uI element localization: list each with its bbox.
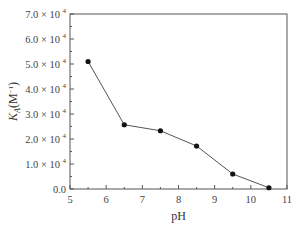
y-tick-label: 4.0 × 10 xyxy=(25,84,60,95)
x-tick-label: 10 xyxy=(246,194,257,205)
y-axis-label: KA(M−1) xyxy=(6,82,22,122)
data-point xyxy=(230,171,235,176)
data-point xyxy=(194,143,199,148)
y-tick-label: 5.0 × 10 xyxy=(25,59,60,70)
x-tick-label: 8 xyxy=(176,194,181,205)
x-tick-label: 7 xyxy=(140,194,145,205)
x-tick-label: 9 xyxy=(212,194,217,205)
data-point xyxy=(85,59,90,64)
y-tick-exponent: 4 xyxy=(63,32,67,40)
y-tick-exponent: 4 xyxy=(63,107,67,115)
y-tick-exponent: 4 xyxy=(63,57,67,65)
x-tick-label: 6 xyxy=(104,194,109,205)
x-axis-label: pH xyxy=(171,209,186,223)
y-tick-exponent: 4 xyxy=(63,82,67,90)
y-tick-label: 6.0 × 10 xyxy=(25,34,60,45)
data-line xyxy=(88,62,269,188)
x-tick-label: 11 xyxy=(282,194,292,205)
y-tick-label: 7.0 × 10 xyxy=(25,9,60,20)
y-tick-label: 3.0 × 10 xyxy=(25,109,60,120)
y-tick-exponent: 4 xyxy=(63,7,67,15)
y-tick-exponent: 4 xyxy=(63,157,67,165)
data-point xyxy=(266,185,271,190)
y-tick-label: 2.0 × 10 xyxy=(25,134,60,145)
data-point xyxy=(158,128,163,133)
y-tick-label: 1.0 × 10 xyxy=(25,159,60,170)
data-point xyxy=(122,122,127,127)
y-tick-label: 0.0 xyxy=(53,184,66,195)
chart: 5678910110.01.0 × 1042.0 × 1043.0 × 1044… xyxy=(0,0,301,230)
plot-frame xyxy=(70,14,287,189)
y-tick-exponent: 4 xyxy=(63,132,67,140)
x-tick-label: 5 xyxy=(67,194,72,205)
